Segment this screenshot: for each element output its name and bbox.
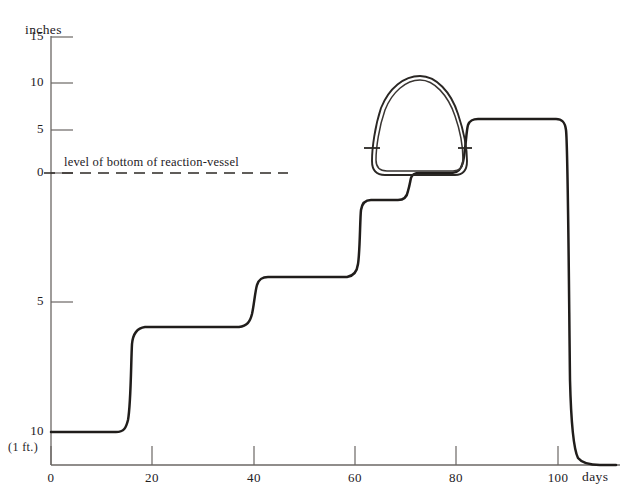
x-tick-label-100: 100	[541, 470, 575, 486]
y-tick-label-minus-10: 10	[14, 423, 44, 439]
y-axis-ticks	[51, 37, 73, 432]
chart-canvas	[0, 0, 633, 493]
x-axis-unit-label: days	[582, 469, 608, 485]
x-tick-label-60: 60	[340, 470, 370, 486]
x-tick-label-0: 0	[36, 470, 66, 486]
x-axis-ticks	[51, 446, 558, 465]
y-tick-label-10: 10	[14, 74, 44, 90]
data-curve	[51, 119, 616, 465]
reference-level-label: level of bottom of reaction-vessel	[64, 155, 239, 170]
y-tick-label-minus-5: 5	[14, 293, 44, 309]
reaction-vessel-outer-outline	[372, 76, 467, 175]
y-tick-label-5: 5	[14, 121, 44, 137]
x-tick-label-40: 40	[239, 470, 269, 486]
y-tick-label-0: 0	[14, 164, 44, 180]
x-tick-label-80: 80	[441, 470, 471, 486]
chart-figure: inches 15 10 5 0 5 10 (1 ft.) 0 20 40 60…	[0, 0, 633, 493]
y-axis-foot-note: (1 ft.)	[8, 440, 38, 455]
y-tick-label-15: 15	[14, 28, 44, 44]
x-tick-label-20: 20	[137, 470, 167, 486]
